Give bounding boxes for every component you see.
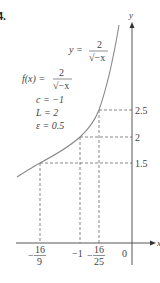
curve-equation-label: y = 2 √−x [68, 39, 108, 63]
svg-text:√−x: √−x [89, 52, 105, 63]
x-axis-label: x [156, 238, 160, 248]
x-axis-arrow-icon [150, 241, 156, 246]
svg-text:16: 16 [35, 244, 45, 255]
svg-text:25: 25 [94, 256, 104, 267]
param-epsilon: ε = 0.5 [36, 120, 64, 131]
function-definition-label: f(x) = 2 √−x [22, 67, 72, 91]
param-L: L = 2 [35, 107, 58, 118]
svg-text:2: 2 [59, 67, 64, 78]
x-tick-0: 0 [122, 248, 127, 259]
function-curve [17, 25, 119, 177]
problem-number: 4. [0, 10, 6, 22]
y-tick-2: 2 [135, 132, 140, 143]
y-tick-2.5: 2.5 [135, 105, 148, 116]
y-axis-label: y [128, 10, 133, 20]
param-c: c = −1 [36, 94, 64, 105]
x-tick-neg-1: −1 [72, 248, 83, 259]
svg-text:f(x) =: f(x) = [22, 73, 45, 85]
axes [16, 25, 153, 265]
y-axis-arrow-icon [130, 22, 135, 28]
x-tick-neg-16-25: − 16 25 [87, 244, 105, 267]
y-tick-1.5: 1.5 [135, 158, 148, 169]
svg-text:9: 9 [37, 256, 42, 267]
svg-text:2: 2 [97, 39, 102, 50]
svg-text:−: − [87, 250, 93, 261]
x-tick-neg-16-9: − 16 9 [28, 244, 46, 267]
svg-text:√−x: √−x [53, 80, 69, 91]
svg-text:−: − [28, 250, 34, 261]
limit-graph: 4. x y 2.5 2 1.5 − 16 9 −1 − 16 25 0 y = [0, 0, 160, 283]
svg-text:16: 16 [94, 244, 104, 255]
svg-text:y =: y = [68, 44, 83, 55]
